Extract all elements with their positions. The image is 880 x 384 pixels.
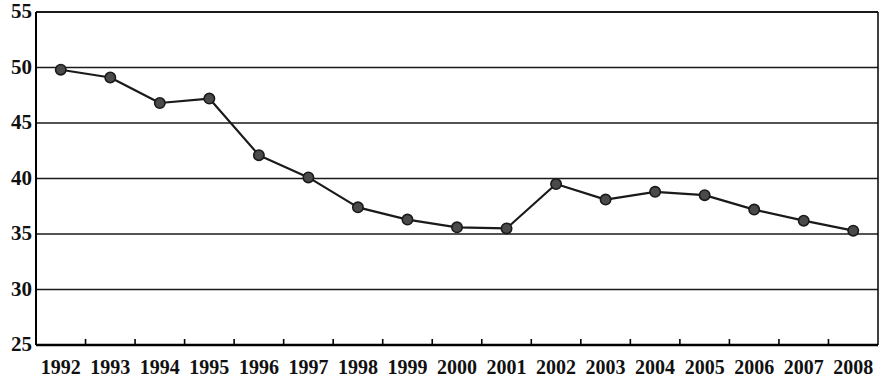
data-point-marker	[254, 150, 264, 160]
data-point-marker	[848, 225, 858, 235]
data-point-marker	[452, 222, 462, 232]
data-point-marker	[155, 98, 165, 108]
data-point-marker	[204, 93, 214, 103]
data-point-marker	[56, 65, 66, 75]
data-point-marker	[303, 172, 313, 182]
data-point-marker	[551, 179, 561, 189]
line-chart-plot	[0, 0, 880, 384]
data-point-marker	[353, 202, 363, 212]
chart-container: 55504540353025 1992199319941995199619971…	[0, 0, 880, 384]
data-point-marker	[600, 194, 610, 204]
data-point-marker	[799, 215, 809, 225]
data-point-marker	[402, 214, 412, 224]
data-point-marker	[650, 187, 660, 197]
data-point-marker	[501, 223, 511, 233]
data-point-marker	[749, 204, 759, 214]
data-point-marker	[105, 72, 115, 82]
data-point-marker	[699, 190, 709, 200]
